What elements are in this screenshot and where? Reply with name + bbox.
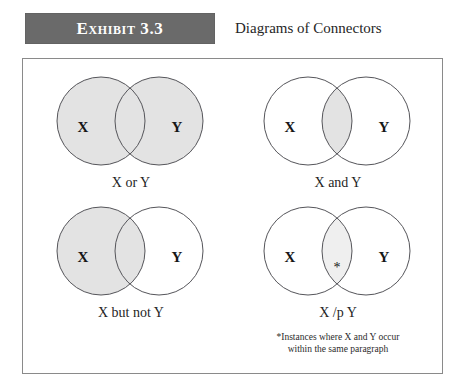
diagram-frame: XYX or YXYX and YXYX but not YXY*X /p Y*…	[22, 58, 443, 374]
venn-diagram-x-but-not-y: XYX but not Y	[31, 195, 231, 345]
venn-svg: XY*	[238, 195, 438, 307]
venn-footnote-line: *Instances where X and Y occur	[238, 331, 438, 343]
circle-y-label: Y	[379, 119, 390, 135]
venn-footnote: *Instances where X and Y occurwithin the…	[238, 331, 438, 355]
venn-footnote-line: within the same paragraph	[238, 343, 438, 355]
venn-diagram-x-slash-p-y: XY*X /p Y*Instances where X and Y occurw…	[238, 195, 438, 345]
circle-y-label: Y	[172, 119, 183, 135]
circle-x-label: X	[285, 119, 296, 135]
exhibit-title: Diagrams of Connectors	[235, 13, 382, 44]
venn-figure: XY	[238, 65, 438, 177]
venn-svg: XY	[238, 65, 438, 177]
circle-x-label: X	[78, 119, 89, 135]
venn-figure: XY	[31, 195, 231, 307]
venn-svg: XY	[31, 195, 231, 307]
venn-svg: XY	[31, 65, 231, 177]
venn-diagram-x-and-y: XYX and Y	[238, 65, 438, 215]
exhibit-number-label: Exhibit 3.3	[25, 13, 215, 44]
venn-caption: X and Y	[238, 175, 438, 191]
venn-caption: X but not Y	[31, 305, 231, 321]
shaded-region-intersection	[322, 88, 352, 154]
venn-figure: XY	[31, 65, 231, 177]
intersection-marker: *	[334, 260, 341, 275]
venn-caption: X or Y	[31, 175, 231, 191]
circle-y-label: Y	[172, 249, 183, 265]
exhibit-number-badge: Exhibit 3.3	[25, 13, 215, 44]
circle-x-label: X	[78, 249, 89, 265]
venn-figure: XY*	[238, 195, 438, 307]
exhibit-header: Exhibit 3.3 Diagrams of Connectors	[0, 0, 463, 58]
circle-x-label: X	[285, 249, 296, 265]
circle-y-label: Y	[379, 249, 390, 265]
venn-diagram-x-or-y: XYX or Y	[31, 65, 231, 215]
venn-caption: X /p Y	[238, 305, 438, 321]
